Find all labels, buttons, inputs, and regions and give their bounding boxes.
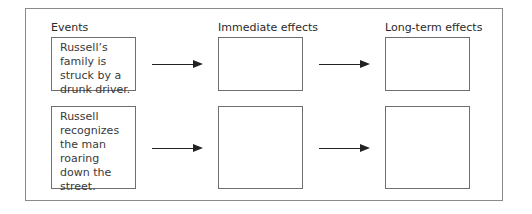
long-term-effect-box-1[interactable] [385,37,470,91]
right-arrow-icon [152,144,203,153]
immediate-effect-box-1[interactable] [218,37,303,91]
column-header-events: Events [51,21,88,34]
right-arrow-icon [319,60,370,69]
right-arrow-icon [319,144,370,153]
event-text-1: Russell’s family is struck by a drunk dr… [60,41,131,97]
column-header-immediate-effects: Immediate effects [218,21,318,34]
column-header-long-term-effects: Long-term effects [385,21,482,34]
event-text-2: Russell recognizes the man roaring down … [60,110,131,194]
right-arrow-icon [152,60,203,69]
event-box-2: Russell recognizes the man roaring down … [51,106,136,189]
long-term-effect-box-2[interactable] [385,106,470,189]
immediate-effect-box-2[interactable] [218,106,303,189]
event-box-1: Russell’s family is struck by a drunk dr… [51,37,136,91]
